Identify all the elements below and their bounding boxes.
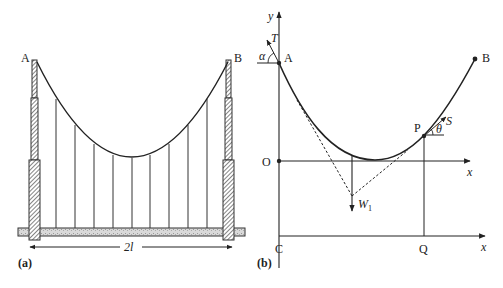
main-cable (37, 62, 228, 157)
figure-canvas: A B 2l (a) y x x O C Q T α A (0, 0, 503, 288)
x-axis-upper-label: x (466, 165, 473, 179)
caption-a: (a) (18, 256, 32, 270)
label-a: A (284, 51, 293, 65)
label-b: B (234, 51, 242, 65)
label-p: P (414, 121, 421, 135)
x-axis-lower-label: x (480, 240, 487, 254)
angle-alpha-arc (268, 53, 274, 63)
y-axis-label: y (267, 9, 274, 23)
road-deck (18, 228, 245, 236)
left-tower (29, 60, 40, 240)
label-theta: θ (436, 122, 442, 136)
label-alpha: α (259, 49, 266, 63)
angle-theta-arc (431, 129, 433, 135)
panel-a-suspension-bridge: A B 2l (a) (18, 51, 245, 270)
label-b: B (482, 51, 490, 65)
tension-s-arrow (424, 117, 446, 136)
right-tower (223, 60, 234, 240)
origin-point (277, 159, 281, 163)
label-w1: W1 (358, 197, 372, 213)
label-a: A (21, 51, 30, 65)
label-t: T (271, 31, 279, 45)
catenary-curve (279, 59, 475, 160)
label-q: Q (419, 242, 428, 256)
origin-label: O (262, 155, 271, 169)
tangent-dashed-right (352, 150, 408, 196)
hangers (56, 99, 207, 228)
label-c: C (275, 242, 283, 256)
caption-b: (b) (257, 256, 272, 270)
span-label: 2l (124, 240, 134, 254)
panel-b-catenary-diagram: y x x O C Q T α A B P θ S (257, 9, 490, 270)
label-s: S (446, 114, 452, 128)
tangent-dashed-left (297, 100, 352, 196)
point-b (473, 57, 478, 62)
